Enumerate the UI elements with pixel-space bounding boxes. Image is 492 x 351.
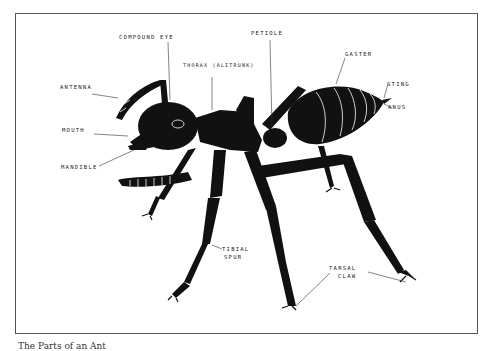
label-tibial-spur-line1: Tibial (222, 246, 249, 252)
gaster-shape (288, 86, 384, 144)
leader-tarsal-claw-1 (296, 273, 330, 306)
label-gaster: Gaster (345, 51, 372, 57)
leader-gaster (336, 58, 345, 84)
leader-mouth (94, 134, 128, 136)
label-petiole: Petiole (251, 30, 283, 36)
label-mandible: Mandible (61, 164, 98, 170)
leader-tarsal-claw-2 (368, 272, 406, 282)
leader-tibial-spur (212, 245, 222, 249)
leader-compound-eye (168, 42, 170, 100)
label-tarsal-claw-line2: Claw (338, 273, 356, 279)
label-mouth: Mouth (62, 127, 85, 133)
leader-antenna (92, 94, 118, 98)
label-anus: Anus (388, 104, 406, 110)
label-thorax: Thorax (Alitrunk) (183, 62, 255, 68)
label-tarsal-claw-line1: Tarsal (329, 265, 356, 271)
label-compound-eye: Compound Eye (119, 34, 174, 40)
label-tibial-spur-line2: Spur (224, 254, 242, 260)
label-antenna: Antenna (60, 84, 92, 90)
label-sting: Sting (387, 81, 410, 87)
leader-mandible (99, 150, 134, 166)
figure-caption: The Parts of an Ant (18, 341, 106, 351)
